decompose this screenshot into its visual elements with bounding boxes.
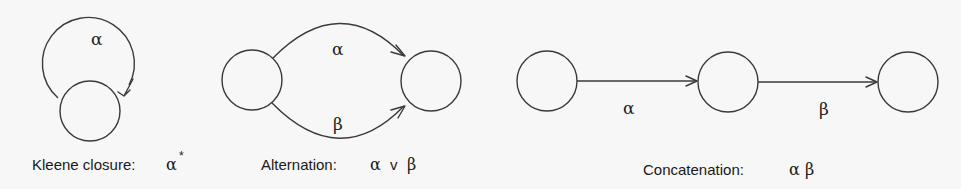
alternation-start-state <box>222 50 282 110</box>
concatenation-state-1 <box>517 51 577 111</box>
alternation-expression-or: v <box>390 156 398 173</box>
kleene-superscript: * <box>179 149 184 163</box>
concatenation-expression: α β <box>789 160 814 179</box>
concatenation-caption: Concatenation: <box>643 161 744 178</box>
kleene-edge-label: α <box>91 29 103 49</box>
alternation-end-state <box>401 51 461 111</box>
kleene-state <box>60 81 120 141</box>
alternation-beta-label: β <box>333 114 343 134</box>
kleene-closure-panel: α Kleene closure: α * <box>32 17 184 174</box>
alternation-caption: Alternation: <box>261 156 337 173</box>
concatenation-state-2 <box>698 52 758 112</box>
regex-operator-diagram: α Kleene closure: α * α β Alternation: α… <box>0 0 961 189</box>
alternation-alpha-label: α <box>332 39 344 59</box>
concatenation-state-3 <box>878 52 938 112</box>
alternation-expression-beta: β <box>407 155 416 174</box>
kleene-caption: Kleene closure: <box>32 156 135 173</box>
concatenation-panel: α β Concatenation: α β <box>517 51 938 179</box>
alternation-panel: α β Alternation: α v β <box>222 23 461 174</box>
kleene-self-loop-edge <box>42 17 134 98</box>
concatenation-alpha-label: α <box>623 98 635 118</box>
kleene-expression: α <box>166 155 177 174</box>
concatenation-beta-label: β <box>819 99 829 119</box>
alternation-expression-alpha: α <box>370 155 381 174</box>
